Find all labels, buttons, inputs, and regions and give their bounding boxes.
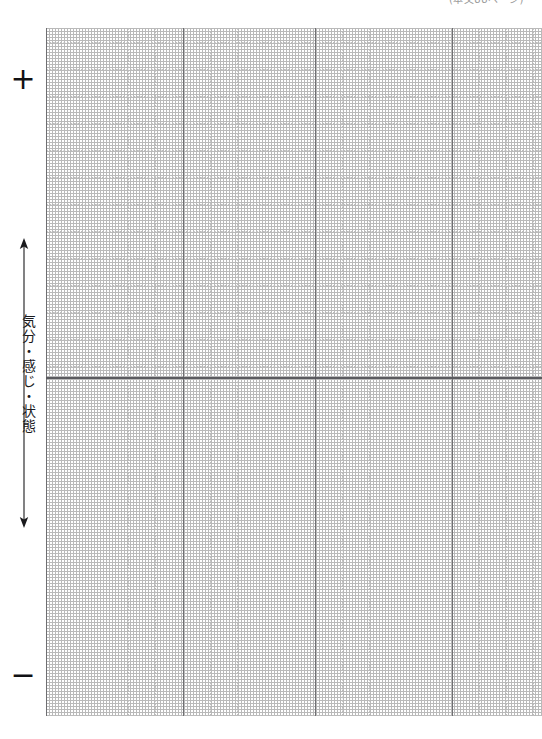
grid-major-vertical-lines <box>46 28 542 716</box>
axis-plus-sign: + <box>0 64 46 94</box>
reference-note: (本文88ページ) <box>449 0 524 6</box>
worksheet-page: (本文88ページ) + 気分・感じ・状態 − <box>0 0 542 739</box>
zero-baseline <box>46 377 542 379</box>
graph-grid <box>46 28 542 716</box>
axis-label-mood: 気分・感じ・状態 <box>12 314 36 434</box>
axis-minus-sign: − <box>0 660 46 690</box>
vertical-axis-legend: + 気分・感じ・状態 − <box>0 28 46 716</box>
grid-vertical-lines <box>46 28 542 716</box>
grid-horizontal-lines <box>46 28 542 716</box>
